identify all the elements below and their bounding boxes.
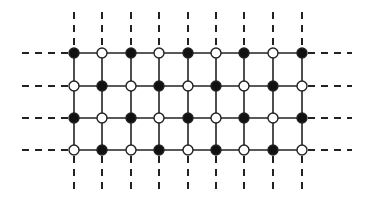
lattice-edges [74,53,302,150]
filled-node [97,145,107,155]
open-node [297,145,307,155]
filled-node [69,48,79,58]
filled-node [268,145,278,155]
open-node [154,48,164,58]
open-node [126,145,136,155]
open-node [297,81,307,91]
filled-node [97,81,107,91]
filled-node [69,113,79,123]
filled-node [126,48,136,58]
open-node [183,145,193,155]
open-node [268,48,278,58]
filled-node [154,81,164,91]
open-node [211,48,221,58]
open-node [183,81,193,91]
filled-node [297,113,307,123]
open-node [97,48,107,58]
open-node [97,113,107,123]
filled-node [183,113,193,123]
open-node [268,113,278,123]
open-node [211,113,221,123]
filled-node [154,145,164,155]
open-node [69,81,79,91]
filled-node [239,48,249,58]
open-node [69,145,79,155]
filled-node [211,145,221,155]
filled-node [126,113,136,123]
filled-node [239,113,249,123]
lattice-diagram [0,0,377,207]
filled-node [211,81,221,91]
open-node [239,145,249,155]
filled-node [183,48,193,58]
filled-node [297,48,307,58]
filled-node [268,81,278,91]
open-node [239,81,249,91]
open-node [126,81,136,91]
open-node [154,113,164,123]
